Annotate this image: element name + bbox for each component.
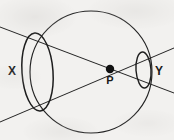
main-circle [30,11,152,133]
ellipse-x [19,32,55,112]
geometry-figure: X Y P [0,0,174,140]
secant-line-upper-left [0,26,174,95]
label-p: P [106,74,113,86]
point-p-marker [106,65,114,73]
label-y: Y [155,64,163,78]
figure-canvas: X Y P [0,0,174,140]
label-x: X [8,64,16,78]
